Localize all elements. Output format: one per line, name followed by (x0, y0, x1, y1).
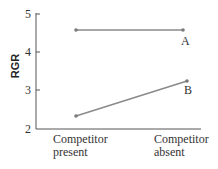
y-axis-title: RGR (9, 54, 21, 79)
series-label-a: A (181, 34, 190, 48)
y-tick-label: 5 (25, 7, 31, 21)
y-tick-label: 3 (25, 83, 31, 97)
data-point (74, 28, 78, 32)
data-point (74, 114, 78, 118)
y-tick-label: 2 (25, 122, 31, 136)
series-label-b: B (184, 83, 192, 97)
x-category-label: Competitor (154, 132, 209, 146)
x-category-label: absent (154, 145, 185, 159)
x-category-label: Competitor (53, 132, 108, 146)
y-tick-label: 4 (25, 45, 31, 59)
series-a: A (74, 28, 190, 48)
data-point (181, 28, 185, 32)
x-category-label: present (53, 145, 88, 159)
line-chart: 5 4 3 2 RGR A B Competitor present Compe… (0, 0, 218, 169)
series-b: B (74, 79, 192, 118)
